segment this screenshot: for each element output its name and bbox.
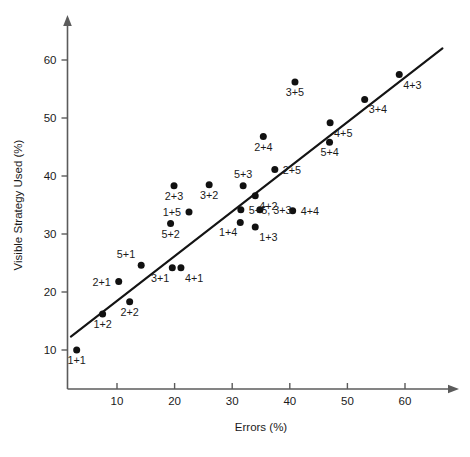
point-label: 5+4 [320,146,338,158]
point-label: 3+5 [286,86,304,98]
data-point [252,224,259,231]
point-label: 2+2 [121,306,139,318]
data-point [240,182,247,189]
x-tick-label: 40 [283,395,296,407]
point-label: 5+1 [117,248,135,260]
data-point [206,181,213,188]
point-label: 4+2 [259,200,277,212]
point-label: 1+2 [93,318,111,330]
data-point [171,182,178,189]
point-label: 1+4 [219,226,237,238]
y-axis-title: Visible Strategy Used (%) [12,139,24,270]
data-point [252,192,259,199]
point-label: 5+3 [234,168,252,180]
point-label: 2+4 [254,141,272,153]
point-label: 4+4 [301,205,319,217]
data-point [396,71,403,78]
scatter-plot-figure: 102030405060102030405060 1+11+22+22+15+1… [0,0,470,457]
plot-canvas: 102030405060102030405060 1+11+22+22+15+1… [0,0,470,457]
x-axis-title: Errors (%) [235,421,288,433]
data-point [260,133,267,140]
data-point [271,166,278,173]
point-label: 4+1 [185,272,203,284]
x-tick-label: 20 [168,395,181,407]
data-point [99,311,106,318]
point-label: 2+1 [92,276,110,288]
x-tick-label: 30 [226,395,239,407]
data-point [361,96,368,103]
data-point [169,264,176,271]
point-label: 1+5 [163,206,181,218]
data-point [126,298,133,305]
x-tick-label: 50 [341,395,354,407]
point-label: 3+1 [151,272,169,284]
data-point [138,262,145,269]
data-point [237,219,244,226]
point-label: 4+5 [334,127,352,139]
y-tick-label: 50 [44,112,57,124]
data-point [327,119,334,126]
data-point [326,139,333,146]
y-tick-label: 10 [44,344,57,356]
point-label: 2+5 [283,164,301,176]
x-tick-label: 60 [399,395,412,407]
y-tick-label: 30 [44,228,57,240]
data-point [167,220,174,227]
point-labels: 1+11+22+22+15+13+14+15+21+52+33+21+41+35… [68,79,422,367]
data-point [237,206,244,213]
data-point [73,347,80,354]
data-point [291,79,298,86]
point-label: 1+3 [259,231,277,243]
point-label: 5+2 [161,228,179,240]
data-point [186,208,193,215]
point-label: 3+2 [200,189,218,201]
x-tick-label: 10 [111,395,124,407]
data-point [115,278,122,285]
data-point [177,264,184,271]
y-tick-label: 40 [44,170,57,182]
y-tick-label: 20 [44,286,57,298]
point-label: 2+3 [165,190,183,202]
y-tick-label: 60 [44,54,57,66]
point-label: 3+4 [369,103,387,115]
point-label: 4+3 [403,79,421,91]
point-label: 1+1 [68,354,86,366]
